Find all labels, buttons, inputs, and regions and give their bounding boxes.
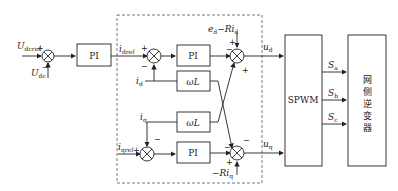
label-id: id [136, 76, 143, 87]
label-iqref: iqref [118, 142, 134, 154]
label-uq: uq [263, 139, 273, 151]
svg-text:侧: 侧 [363, 86, 372, 97]
svg-text:网: 网 [363, 75, 372, 85]
pi-d-block: PI [177, 45, 210, 66]
control-diagram: PI PI ωL ωL PI [0, 0, 398, 191]
svg-text:ωL: ωL [186, 118, 199, 128]
wl-top-block: ωL [177, 71, 210, 91]
svg-text:SPWM: SPWM [288, 95, 319, 105]
svg-text:+: + [242, 66, 249, 75]
svg-text:PI: PI [188, 51, 198, 61]
label-sa: Sa [328, 60, 338, 71]
svg-text:−: − [141, 62, 148, 71]
label-idref: idref [119, 44, 135, 55]
label-ud: ud [263, 42, 273, 53]
svg-text:−: − [243, 136, 250, 145]
label-sb: Sb [328, 88, 338, 99]
sum-junction-q [140, 147, 154, 161]
wl-bottom-block: ωL [177, 112, 210, 132]
pi-outer-block: PI [77, 44, 111, 66]
sum-junction-d [147, 49, 161, 63]
svg-text:+: + [133, 146, 140, 155]
sum-junction-voltage [42, 50, 54, 62]
svg-text:−: − [226, 45, 233, 54]
label-ed-rid: ed−Rid [208, 24, 238, 35]
spwm-block: SPWM [285, 35, 322, 166]
svg-text:变: 变 [363, 110, 372, 121]
svg-text:ωL: ωL [186, 77, 199, 87]
svg-text:+: + [226, 158, 233, 167]
svg-text:逆: 逆 [363, 98, 372, 109]
label-riq: −Riq [212, 168, 233, 180]
svg-text:PI: PI [188, 148, 198, 158]
svg-text:+: + [141, 44, 148, 53]
grid-side-inverter-block: 网 侧 逆 变 器 [348, 35, 386, 166]
pi-q-block: PI [177, 142, 210, 163]
svg-text:+: + [37, 44, 44, 53]
svg-text:−: − [154, 135, 161, 144]
label-iq: iq [140, 112, 147, 124]
svg-text:器: 器 [363, 123, 372, 133]
label-sc: Sc [328, 112, 338, 123]
svg-text:PI: PI [89, 51, 99, 61]
svg-text:−: − [224, 143, 231, 152]
svg-text:−: − [42, 63, 49, 72]
